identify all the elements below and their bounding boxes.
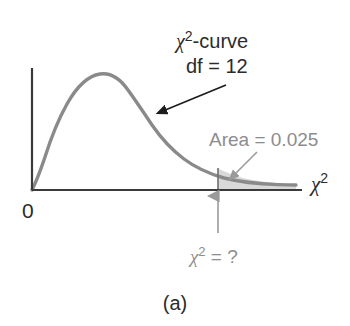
curve-label-line1: χ2-curve (174, 28, 248, 53)
curve-label-line2: df = 12 (186, 55, 248, 77)
critical-value-equals-question: = ? (206, 246, 238, 267)
origin-label: 0 (22, 199, 34, 222)
x-axis-label: χ2 (309, 170, 328, 196)
chi-square-distribution-chart: 0 χ2-curve df = 12 Area = 0.025 χ2 χ2 = … (0, 0, 350, 326)
curve-label-chi-exponent: 2 (185, 28, 193, 44)
figure-caption: (a) (163, 292, 187, 314)
area-label: Area = 0.025 (209, 129, 318, 150)
critical-value-label: χ2 = ? (188, 244, 238, 267)
critical-value-chi-exponent: 2 (198, 244, 205, 259)
x-axis-chi-exponent: 2 (320, 170, 328, 186)
chi-square-figure: 0 χ2-curve df = 12 Area = 0.025 χ2 χ2 = … (0, 0, 350, 326)
curve-label-arrow (158, 85, 226, 113)
x-axis-chi-glyph: χ (309, 172, 321, 196)
curve-label-curve-word: -curve (193, 30, 249, 52)
area-label-arrow (230, 152, 257, 179)
critical-value-chi-glyph: χ (188, 246, 199, 267)
